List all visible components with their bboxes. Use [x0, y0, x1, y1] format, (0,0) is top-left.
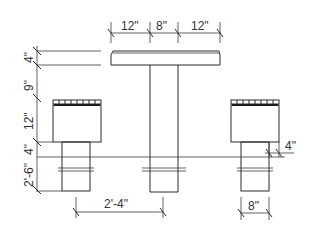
- elevation-drawing: 12" 8" 12": [0, 0, 319, 231]
- dim-label-top-center: 8": [156, 19, 167, 33]
- dim-label-top-left: 12": [121, 19, 139, 33]
- left-stool-seat: [53, 105, 101, 142]
- dim-label-table-top-thickness: 4": [22, 52, 36, 63]
- dim-label-stool-base-width: 8": [248, 199, 259, 213]
- left-stool: [53, 100, 101, 191]
- dim-label-top-right: 12": [191, 19, 209, 33]
- table: [111, 51, 220, 192]
- dim-label-overall-seat-height: 2'-6": [22, 163, 36, 187]
- dim-label-gap-to-seat: 9": [22, 80, 36, 91]
- dim-label-seat-base-step: 4": [22, 144, 36, 155]
- dim-label-stool-spacing: 2'-4": [104, 197, 128, 211]
- bottom-base-dimension: 8": [238, 197, 272, 220]
- top-dimension-chain: 12" 8" 12": [108, 19, 223, 43]
- right-stool-seat: [231, 105, 279, 142]
- bottom-spacing-dimension: 2'-4": [73, 197, 166, 218]
- right-stool: [231, 100, 279, 191]
- dim-label-seat-height: 12": [22, 112, 36, 130]
- right-stool-base: [241, 142, 269, 191]
- left-stool-base: [62, 142, 90, 191]
- dim-label-base-offset: 4": [285, 139, 296, 153]
